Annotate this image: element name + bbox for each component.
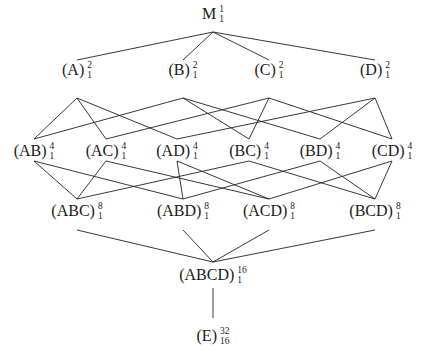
node-indices: 81 — [204, 201, 209, 221]
edge-D-CD — [375, 98, 392, 139]
node-label: (ACD) — [243, 203, 287, 219]
node-superscript: 4 — [264, 141, 269, 151]
node-subscript: 1 — [204, 211, 209, 221]
node-indices: 21 — [385, 60, 390, 80]
node-superscript: 4 — [193, 141, 198, 151]
node-subscript: 1 — [396, 211, 401, 221]
node-superscript: 4 — [408, 141, 413, 151]
node-indices: 41 — [336, 141, 341, 161]
node-indices: 21 — [87, 60, 92, 80]
node-label: (C) — [254, 62, 275, 78]
node-label: M — [202, 6, 216, 22]
node-c: (C)21 — [254, 60, 283, 80]
node-label: (AD) — [156, 143, 190, 159]
node-label: (E) — [197, 328, 217, 344]
node-indices: 41 — [122, 141, 127, 161]
node-subscript: 1 — [87, 70, 92, 80]
node-label: (ABD) — [157, 203, 201, 219]
node-a: (A)21 — [62, 60, 92, 80]
edge-M-D — [213, 32, 375, 60]
edge-AC-ACD — [106, 161, 269, 199]
node-subscript: 1 — [50, 151, 55, 161]
node-superscript: 2 — [279, 60, 284, 70]
edge-M-C — [213, 32, 269, 60]
node-subscript: 16 — [220, 336, 230, 346]
node-indices: 41 — [193, 141, 198, 161]
node-label: (B) — [168, 62, 189, 78]
node-indices: 21 — [193, 60, 198, 80]
node-subscript: 1 — [264, 151, 269, 161]
edge-B-BC — [183, 98, 249, 139]
node-abd: (ABD)81 — [157, 201, 209, 221]
node-indices: 81 — [98, 201, 103, 221]
node-cd: (CD)41 — [372, 141, 413, 161]
node-indices: 41 — [50, 141, 55, 161]
node-superscript: 4 — [50, 141, 55, 151]
node-bcd: (BCD)81 — [349, 201, 400, 221]
node-superscript: 2 — [87, 60, 92, 70]
node-subscript: 1 — [193, 70, 198, 80]
node-subscript: 1 — [193, 151, 198, 161]
edge-ABD-ABCD — [183, 230, 213, 262]
node-subscript: 1 — [219, 14, 224, 24]
node-subscript: 1 — [408, 151, 413, 161]
node-subscript: 1 — [237, 275, 247, 285]
node-indices: 41 — [264, 141, 269, 161]
node-e: (E)3216 — [197, 326, 230, 346]
edge-CD-ACD — [269, 161, 392, 199]
edge-ACD-ABCD — [213, 230, 269, 262]
node-subscript: 1 — [336, 151, 341, 161]
node-label: (BCD) — [349, 203, 393, 219]
node-indices: 41 — [408, 141, 413, 161]
node-superscript: 1 — [219, 4, 224, 14]
node-superscript: 32 — [220, 326, 230, 336]
node-label: (ABC) — [51, 203, 95, 219]
node-subscript: 1 — [290, 211, 295, 221]
edge-BD-BCD — [320, 161, 375, 199]
node-superscript: 2 — [385, 60, 390, 70]
edge-CD-BCD — [375, 161, 392, 199]
node-subscript: 1 — [385, 70, 390, 80]
node-superscript: 16 — [237, 265, 247, 275]
node-label: (D) — [360, 62, 382, 78]
edge-B-AB — [34, 98, 183, 139]
node-ab: (AB)41 — [14, 141, 55, 161]
node-subscript: 1 — [98, 211, 103, 221]
edge-ABC-ABCD — [77, 230, 213, 262]
node-b: (B)21 — [168, 60, 197, 80]
node-label: (A) — [62, 62, 84, 78]
node-superscript: 8 — [290, 201, 295, 211]
node-superscript: 2 — [193, 60, 198, 70]
node-label: (AC) — [86, 143, 119, 159]
node-indices: 161 — [237, 265, 247, 285]
node-superscript: 4 — [122, 141, 127, 151]
edge-BD-ABD — [183, 161, 320, 199]
node-label: (AB) — [14, 143, 47, 159]
node-label: (BC) — [229, 143, 261, 159]
edge-C-CD — [269, 98, 392, 139]
node-label: (CD) — [372, 143, 405, 159]
node-indices: 11 — [219, 4, 224, 24]
node-bc: (BC)41 — [229, 141, 269, 161]
node-ad: (AD)41 — [156, 141, 198, 161]
edge-AD-ABD — [177, 161, 183, 199]
node-indices: 21 — [279, 60, 284, 80]
node-label: (ABCD) — [179, 267, 234, 283]
edge-D-AD — [177, 98, 375, 139]
edge-M-A — [77, 32, 213, 60]
node-d: (D)21 — [360, 60, 390, 80]
node-indices: 81 — [290, 201, 295, 221]
node-subscript: 1 — [279, 70, 284, 80]
node-superscript: 8 — [396, 201, 401, 211]
edge-BC-BCD — [249, 161, 375, 199]
node-bd: (BD)41 — [300, 141, 341, 161]
node-acd: (ACD)81 — [243, 201, 295, 221]
edge-AB-ABD — [34, 161, 183, 199]
node-indices: 3216 — [220, 326, 230, 346]
node-indices: 81 — [396, 201, 401, 221]
node-label: (BD) — [300, 143, 333, 159]
edge-C-AC — [106, 98, 269, 139]
edge-M-B — [183, 32, 213, 60]
edges-layer — [0, 0, 430, 363]
node-superscript: 8 — [204, 201, 209, 211]
